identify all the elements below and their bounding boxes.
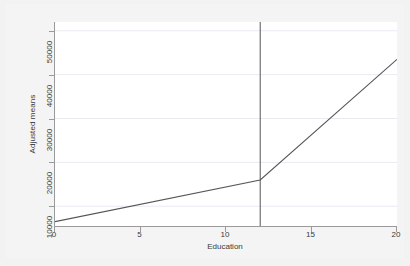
x-tick-label-1: 5 — [125, 230, 155, 240]
x-axis-title: Education — [54, 242, 396, 251]
gridlines — [55, 31, 397, 206]
plot-svg — [55, 22, 397, 226]
chart-canvas: Adjusted means 1000020000300004000050000… — [6, 4, 404, 258]
x-tick-label-4: 20 — [381, 230, 410, 240]
y-axis-title: Adjusted means — [28, 22, 42, 226]
data-series — [55, 59, 397, 221]
series-line-0 — [55, 59, 397, 221]
x-tick-label-3: 15 — [296, 230, 326, 240]
x-tick-label-2: 10 — [210, 230, 240, 240]
chart-figure: Adjusted means 1000020000300004000050000… — [0, 0, 410, 266]
x-tick-label-0: 0 — [39, 230, 69, 240]
plot-region — [54, 22, 397, 227]
